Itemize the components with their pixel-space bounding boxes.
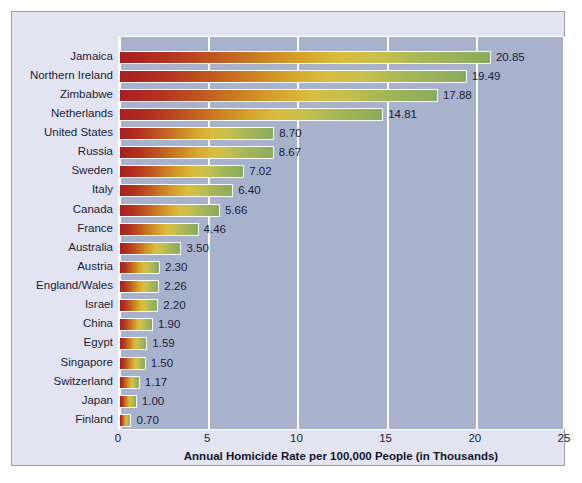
y-axis-label: Switzerland xyxy=(26,372,113,391)
y-axis-label: Zimbabwe xyxy=(26,85,113,104)
bar-value-label: 2.30 xyxy=(165,258,187,277)
bar-row: 1.17 xyxy=(119,373,565,392)
bar-row: 6.40 xyxy=(119,181,565,200)
bar-row: 1.50 xyxy=(119,354,565,373)
x-axis-tick-labels: 0510152025 xyxy=(118,432,564,448)
bar-value-label: 4.46 xyxy=(204,220,226,239)
bar-row: 5.66 xyxy=(119,201,565,220)
bar[interactable] xyxy=(119,337,147,350)
y-axis-label: Israel xyxy=(26,295,113,314)
y-axis-label: Japan xyxy=(26,391,113,410)
bar-value-label: 8.67 xyxy=(279,143,301,162)
bar[interactable] xyxy=(119,414,131,427)
bar-value-label: 17.88 xyxy=(443,86,472,105)
y-axis-label-row: Finland xyxy=(26,410,113,429)
bar-row: 1.59 xyxy=(119,334,565,353)
y-axis-label: Singapore xyxy=(26,353,113,372)
bar-row: 2.30 xyxy=(119,258,565,277)
x-axis-tick-label: 15 xyxy=(379,432,392,444)
bar-value-label: 7.02 xyxy=(249,162,271,181)
bar-row: 8.67 xyxy=(119,143,565,162)
bar[interactable] xyxy=(119,376,140,389)
y-axis-label-row: Canada xyxy=(26,200,113,219)
y-axis-label-row: Italy xyxy=(26,180,113,199)
bar-row: 14.81 xyxy=(119,105,565,124)
bar[interactable] xyxy=(119,51,491,64)
y-axis-label: Finland xyxy=(26,410,113,429)
bar-value-label: 1.90 xyxy=(158,315,180,334)
bar-row: 0.70 xyxy=(119,411,565,430)
plot-area: 20.8519.4917.8814.818.708.677.026.405.66… xyxy=(118,36,564,430)
y-axis-label-row: Northern Ireland xyxy=(26,66,113,85)
bar[interactable] xyxy=(119,280,159,293)
y-axis-label: China xyxy=(26,314,113,333)
bar-row: 1.90 xyxy=(119,315,565,334)
bar-row: 8.70 xyxy=(119,124,565,143)
x-axis-tick-label: 0 xyxy=(115,432,121,444)
chart-panel: JamaicaNorthern IrelandZimbabweNetherlan… xyxy=(11,11,565,466)
y-axis-label: Australia xyxy=(26,238,113,257)
bar-value-label: 2.20 xyxy=(163,296,185,315)
bar-value-label: 1.00 xyxy=(142,392,164,411)
bar-value-label: 2.26 xyxy=(164,277,186,296)
bar[interactable] xyxy=(119,184,233,197)
y-axis-label-row: Australia xyxy=(26,238,113,257)
bar-value-label: 1.59 xyxy=(152,334,174,353)
y-axis-label: Jamaica xyxy=(26,47,113,66)
y-axis-label-row: Jamaica xyxy=(26,47,113,66)
bar[interactable] xyxy=(119,127,274,140)
x-axis-tick-label: 20 xyxy=(468,432,481,444)
y-axis-label: England/Wales xyxy=(26,276,113,295)
bar[interactable] xyxy=(119,223,199,236)
bar-value-label: 8.70 xyxy=(279,124,301,143)
bar-value-label: 1.50 xyxy=(151,354,173,373)
bar[interactable] xyxy=(119,395,137,408)
bar-value-label: 14.81 xyxy=(388,105,417,124)
bar-row: 2.26 xyxy=(119,277,565,296)
bar-row: 7.02 xyxy=(119,162,565,181)
bar[interactable] xyxy=(119,89,438,102)
y-axis-label-row: England/Wales xyxy=(26,276,113,295)
y-axis-label-row: Netherlands xyxy=(26,104,113,123)
bar[interactable] xyxy=(119,108,383,121)
x-axis-tick-label: 5 xyxy=(204,432,210,444)
y-axis-label-row: Austria xyxy=(26,257,113,276)
x-axis-tick-label: 25 xyxy=(558,432,571,444)
bar[interactable] xyxy=(119,299,158,312)
bar[interactable] xyxy=(119,70,467,83)
bar-value-label: 6.40 xyxy=(238,181,260,200)
bar-row: 19.49 xyxy=(119,67,565,86)
y-axis-label: Netherlands xyxy=(26,104,113,123)
bar-row: 17.88 xyxy=(119,86,565,105)
chart-figure: JamaicaNorthern IrelandZimbabweNetherlan… xyxy=(0,0,582,483)
bar-row: 2.20 xyxy=(119,296,565,315)
bar[interactable] xyxy=(119,357,146,370)
y-axis-label-row: Switzerland xyxy=(26,372,113,391)
bar[interactable] xyxy=(119,146,274,159)
y-axis-label-row: China xyxy=(26,314,113,333)
bar-value-label: 5.66 xyxy=(225,201,247,220)
bar[interactable] xyxy=(119,261,160,274)
bar-value-label: 19.49 xyxy=(472,67,501,86)
y-axis-label: France xyxy=(26,219,113,238)
bar-value-label: 3.50 xyxy=(186,239,208,258)
bar[interactable] xyxy=(119,204,220,217)
y-axis-label: United States xyxy=(26,123,113,142)
bar[interactable] xyxy=(119,318,153,331)
y-axis-label: Russia xyxy=(26,142,113,161)
y-axis-label: Northern Ireland xyxy=(26,66,113,85)
bar-row: 3.50 xyxy=(119,239,565,258)
y-axis-label-row: Russia xyxy=(26,142,113,161)
x-axis-title: Annual Homicide Rate per 100,000 People … xyxy=(118,450,564,462)
y-axis-label-row: France xyxy=(26,219,113,238)
bar[interactable] xyxy=(119,242,181,255)
y-axis-label: Canada xyxy=(26,200,113,219)
y-axis-label-row: Sweden xyxy=(26,161,113,180)
y-axis-label-row: Egypt xyxy=(26,333,113,352)
bar-value-label: 0.70 xyxy=(136,411,158,430)
bar-row: 20.85 xyxy=(119,48,565,67)
y-axis-label-row: Zimbabwe xyxy=(26,85,113,104)
bar-row: 4.46 xyxy=(119,220,565,239)
bar[interactable] xyxy=(119,165,244,178)
bar-value-label: 1.17 xyxy=(145,373,167,392)
